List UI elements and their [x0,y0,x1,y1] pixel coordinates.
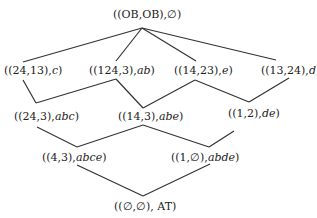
node-set: abde [208,151,235,164]
node-pair: ((14,3), [118,110,159,123]
node-set: abc [55,110,75,123]
node-pair: ((24,3), [14,110,55,123]
node-close: ) [275,107,279,120]
lattice-edge [37,127,77,147]
node-close: ) [177,8,181,21]
lattice-edge [23,80,36,103]
node-close: ) [58,64,62,77]
lattice-edge [36,79,116,103]
lattice-edge [116,28,142,61]
node-close: ) [75,110,79,123]
node-pair: ((∅,∅), AT) [114,200,176,213]
lattice-node-n7: ((1,2),de) [228,107,280,120]
lattice-edge [143,80,195,108]
lattice-node-top: ((OB,OB),∅) [113,8,181,21]
lattice-edge [77,165,143,196]
lattice-node-n3: ((14,23),e) [174,64,233,77]
lattice-edge [77,125,143,147]
node-pair: ((124,3), [89,64,137,77]
lattice-edge [249,78,289,102]
node-pair: ((OB,OB), [113,8,167,21]
node-set: ab [137,64,151,77]
node-close: ) [150,64,154,77]
node-set: d [309,64,316,77]
node-set: abe [159,110,179,123]
lattice-edge [142,28,276,60]
node-pair: ((4,3), [42,151,76,164]
node-set: de [262,107,276,120]
node-set: ∅ [167,8,177,21]
node-pair: ((1,2), [228,107,262,120]
lattice-edge [142,28,196,61]
lattice-edge [23,28,142,62]
node-close: ) [179,110,183,123]
lattice-node-n9: ((1,∅),abde) [171,151,239,164]
node-close: ) [316,64,317,77]
node-close: ) [102,151,106,164]
lattice-diagram: ((OB,OB),∅)((24,13),c)((124,3),ab)((14,2… [0,0,317,218]
lattice-node-bottom: ((∅,∅), AT) [114,200,176,213]
node-close: ) [235,151,239,164]
lattice-node-n4: ((13,24),d) [261,64,317,77]
lattice-node-n2: ((124,3),ab) [89,64,155,77]
lattice-edge [143,125,209,147]
lattice-edge [143,164,210,196]
lattice-edge [195,80,249,102]
node-close: ) [228,64,232,77]
node-pair: ((24,13), [4,64,52,77]
lattice-node-n8: ((4,3),abce) [42,151,106,164]
lattice-edge [209,131,234,147]
lattice-node-n6: ((14,3),abe) [118,110,183,123]
lattice-edge [116,79,143,108]
node-pair: ((13,24), [261,64,309,77]
node-pair: ((14,23), [174,64,222,77]
node-set: abce [76,151,102,164]
lattice-node-n1: ((24,13),c) [4,64,62,77]
lattice-node-n5: ((24,3),abc) [14,110,79,123]
node-pair: ((1,∅), [171,151,208,164]
